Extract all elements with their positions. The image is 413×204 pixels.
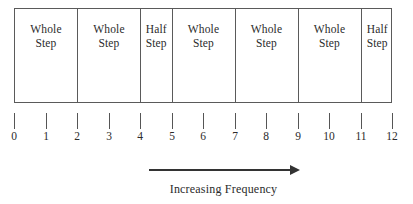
scale-tick-label-4: 4 (128, 129, 152, 143)
scale-tick-12 (392, 113, 393, 129)
scale-tick-label-7: 7 (223, 129, 247, 143)
increasing-frequency-arrow (149, 164, 300, 177)
scale-tick-label-3: 3 (97, 129, 121, 143)
interval-segment-half-step-6: Half Step (362, 9, 394, 102)
interval-diagram: Whole StepWhole StepHalf StepWhole StepW… (0, 0, 413, 204)
scale-tick-label-1: 1 (34, 129, 58, 143)
arrow-caption-label: Increasing Frequency (170, 182, 278, 197)
interval-segment-label: Whole Step (93, 23, 124, 50)
arrow-line-icon (149, 169, 292, 171)
arrow-head-icon (290, 165, 300, 175)
interval-segment-whole-step-4: Whole Step (236, 9, 299, 102)
scale-tick-label-2: 2 (65, 129, 89, 143)
arrow-caption: Increasing Frequency (0, 182, 413, 197)
interval-segment-label: Whole Step (251, 23, 282, 50)
interval-segment-label: Half Step (367, 23, 388, 50)
scale-tick-label-0: 0 (2, 129, 26, 143)
interval-segment-whole-step-1: Whole Step (78, 9, 141, 102)
scale-tick-6 (203, 113, 204, 129)
scale-tick-5 (172, 113, 173, 129)
scale-tick-label-11: 11 (349, 129, 373, 143)
scale-tick-3 (109, 113, 110, 129)
scale-tick-1 (46, 113, 47, 129)
scale-tick-label-8: 8 (254, 129, 278, 143)
interval-segment-label: Half Step (146, 23, 167, 50)
interval-segment-label: Whole Step (30, 23, 61, 50)
scale-tick-11 (361, 113, 362, 129)
scale-tick-label-9: 9 (286, 129, 310, 143)
scale-tick-label-5: 5 (160, 129, 184, 143)
scale-tick-label-12: 12 (380, 129, 404, 143)
scale-tick-9 (298, 113, 299, 129)
interval-segment-whole-step-5: Whole Step (299, 9, 362, 102)
interval-segment-half-step-2: Half Step (141, 9, 173, 102)
scale-tick-10 (329, 113, 330, 129)
interval-segment-label: Whole Step (314, 23, 345, 50)
interval-segment-whole-step-0: Whole Step (15, 9, 78, 102)
scale-tick-7 (235, 113, 236, 129)
interval-segment-label: Whole Step (188, 23, 219, 50)
scale-tick-label-6: 6 (191, 129, 215, 143)
scale-tick-0 (14, 113, 15, 129)
scale-tick-8 (266, 113, 267, 129)
scale-tick-2 (77, 113, 78, 129)
scale-tick-4 (140, 113, 141, 129)
interval-segment-whole-step-3: Whole Step (173, 9, 236, 102)
scale-tick-label-10: 10 (317, 129, 341, 143)
interval-bar: Whole StepWhole StepHalf StepWhole StepW… (14, 8, 392, 103)
